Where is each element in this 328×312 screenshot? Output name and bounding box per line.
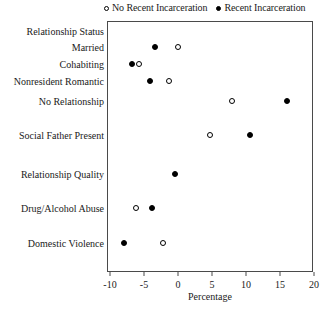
- data-point-social-father-present-no-recent-incarceration: [207, 132, 213, 138]
- x-axis-title: Percentage: [107, 291, 313, 303]
- data-point-no-relationship-recent-incarceration: [284, 98, 290, 104]
- chart-container: No Recent Incarceration Recent Incarcera…: [0, 0, 328, 312]
- y-axis-label-relationship-status: Relationship Status: [0, 26, 104, 37]
- data-point-cohabiting-no-recent-incarceration: [136, 61, 142, 67]
- y-axis-label-domestic-violence: Domestic Violence: [0, 238, 104, 249]
- x-axis-tick-10: [246, 272, 247, 276]
- x-axis-ticklabel-15: 15: [275, 279, 285, 290]
- y-axis-label-cohabiting: Cohabiting: [0, 59, 104, 70]
- data-point-cohabiting-recent-incarceration: [129, 61, 135, 67]
- x-axis-tick-20: [314, 272, 315, 276]
- data-point-married-recent-incarceration: [152, 44, 158, 50]
- legend-label-no-recent-incarceration: No Recent Incarceration: [112, 2, 207, 14]
- x-axis-ticklabel-20: 20: [309, 279, 319, 290]
- x-axis-tick-5: [212, 272, 213, 276]
- x-axis-tick-15: [280, 272, 281, 276]
- data-point-married-no-recent-incarceration: [175, 44, 181, 50]
- legend-item-recent-incarceration: Recent Incarceration: [216, 2, 305, 14]
- y-axis-label-no-relationship: No Relationship: [0, 96, 104, 107]
- plot-area: [107, 21, 313, 272]
- filled-circle-marker-icon: [216, 6, 221, 11]
- data-point-domestic-violence-recent-incarceration: [121, 240, 127, 246]
- data-point-nonresident-romantic-no-recent-incarceration: [166, 78, 172, 84]
- legend-item-no-recent-incarceration: No Recent Incarceration: [104, 2, 207, 14]
- y-axis-label-nonresident-romantic: Nonresident Romantic: [0, 76, 104, 87]
- data-point-no-relationship-no-recent-incarceration: [229, 98, 235, 104]
- data-point-domestic-violence-no-recent-incarceration: [160, 240, 166, 246]
- data-point-drug-alcohol-abuse-recent-incarceration: [149, 205, 155, 211]
- y-axis-label-relationship-quality: Relationship Quality: [0, 169, 104, 180]
- data-point-nonresident-romantic-recent-incarceration: [147, 78, 153, 84]
- legend-label-recent-incarceration: Recent Incarceration: [224, 2, 305, 14]
- data-point-drug-alcohol-abuse-no-recent-incarceration: [133, 205, 139, 211]
- x-axis-tick-0: [178, 272, 179, 276]
- x-axis-ticklabel-0: 0: [176, 279, 181, 290]
- chart-legend: No Recent Incarceration Recent Incarcera…: [104, 0, 328, 16]
- y-axis-label-married: Married: [0, 42, 104, 53]
- x-axis-ticklabel-10: 10: [241, 279, 251, 290]
- y-axis-label-drug-alcohol-abuse: Drug/Alcohol Abuse: [0, 203, 104, 214]
- x-axis-tick-neg5: [144, 272, 145, 276]
- data-point-relationship-quality-recent-incarceration: [172, 171, 178, 177]
- y-axis-label-social-father-present: Social Father Present: [0, 130, 104, 141]
- x-axis-tick-neg10: [110, 272, 111, 276]
- open-circle-marker-icon: [104, 6, 109, 11]
- x-axis-ticklabel-neg5: -5: [140, 279, 148, 290]
- x-axis-ticklabel-neg10: -10: [103, 279, 116, 290]
- x-axis-ticklabel-5: 5: [210, 279, 215, 290]
- data-point-social-father-present-recent-incarceration: [247, 132, 253, 138]
